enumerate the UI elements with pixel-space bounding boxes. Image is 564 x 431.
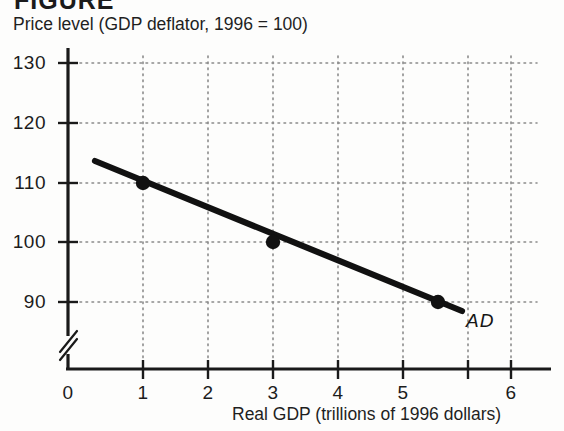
x-tick-label-1: 1 <box>131 382 155 404</box>
x-axis-title: Real GDP (trillions of 1996 dollars) <box>232 404 501 425</box>
x-tick-label-3: 3 <box>261 382 285 404</box>
chart-plot-area <box>0 0 564 431</box>
x-tick-label-0: 0 <box>56 382 80 404</box>
y-tick-label-130: 130 <box>0 52 46 74</box>
y-tick-label-90: 90 <box>0 291 46 313</box>
y-tick-label-100: 100 <box>0 231 46 253</box>
y-tick-label-120: 120 <box>0 112 46 134</box>
vertical-gridlines <box>143 56 511 368</box>
x-tick-label-4: 4 <box>326 382 350 404</box>
data-point-1 <box>136 176 150 190</box>
x-tick-label-2: 2 <box>196 382 220 404</box>
figure-canvas: FIGURE Price level (GDP deflator, 1996 =… <box>0 0 564 431</box>
x-tick-label-5: 5 <box>391 382 415 404</box>
y-tick-label-110: 110 <box>0 172 46 194</box>
x-tick-label-6: 6 <box>499 382 523 404</box>
data-point-3 <box>431 295 445 309</box>
ad-curve-label: AD <box>466 310 494 332</box>
data-point-2 <box>266 235 280 249</box>
